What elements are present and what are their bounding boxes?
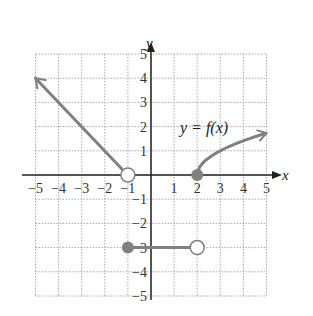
function-graph: −5−4−3−2−11234554321−1−2−3−4−5 x y y = f… xyxy=(0,0,313,316)
x-axis-label: x xyxy=(281,167,289,183)
y-tick-label: 3 xyxy=(140,95,147,110)
x-tick-label: 4 xyxy=(240,181,247,196)
y-tick-label: 4 xyxy=(140,71,147,86)
x-tick-label: −5 xyxy=(28,181,43,196)
y-tick-label: −4 xyxy=(132,265,147,280)
x-tick-label: 3 xyxy=(217,181,224,196)
open-endpoint xyxy=(121,168,135,182)
x-tick-label: −3 xyxy=(74,181,89,196)
x-tick-label: −4 xyxy=(51,181,66,196)
y-tick-label: 2 xyxy=(140,120,147,135)
y-axis-label: y xyxy=(144,35,153,51)
y-tick-label: 1 xyxy=(140,144,147,159)
x-tick-label: 2 xyxy=(194,181,201,196)
y-tick-label: −1 xyxy=(132,192,147,207)
open-endpoint xyxy=(190,241,204,255)
closed-endpoint xyxy=(191,169,203,181)
y-tick-label: −5 xyxy=(132,289,147,304)
y-tick-label: −2 xyxy=(132,216,147,231)
function-label: y = f(x) xyxy=(178,119,228,137)
x-tick-label: −2 xyxy=(97,181,112,196)
closed-endpoint xyxy=(122,242,134,254)
x-tick-label: 1 xyxy=(171,181,178,196)
x-tick-label: 5 xyxy=(263,181,270,196)
